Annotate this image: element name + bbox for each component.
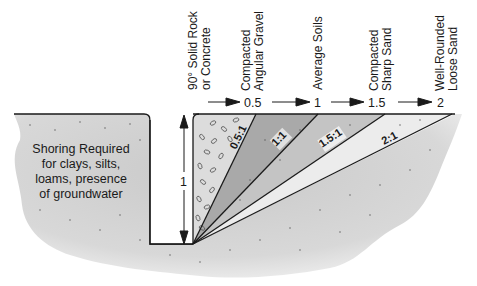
run-label-1: 1	[314, 96, 321, 110]
soil-label-rock-2: or Concrete	[199, 27, 213, 90]
vertical-label: 1	[180, 175, 187, 189]
run-label-0-5: 0.5	[244, 96, 261, 110]
svg-text:loams, presence: loams, presence	[35, 172, 127, 186]
soil-label-loose-2: Loose Sand	[446, 27, 460, 91]
run-label-1-5: 1.5	[368, 96, 385, 110]
soil-label-gravel-1: Compacted	[239, 30, 253, 91]
slope-diagram: 0.5:1 1:1 1.5:1 2:1 1 0.5 1 1.5 2 90° So…	[0, 0, 477, 286]
soil-label-loose-1: Well-Rounded	[433, 15, 447, 91]
soil-label-average: Average Soils	[311, 16, 325, 90]
run-label-2: 2	[437, 96, 444, 110]
svg-text:for clays, silts,: for clays, silts,	[42, 157, 121, 171]
soil-label-sharp-2: Sharp Sand	[380, 28, 394, 91]
soil-label-rock-1: 90° Solid Rock	[186, 10, 200, 90]
svg-text:Shoring Required: Shoring Required	[32, 142, 129, 156]
soil-label-gravel-2: Angular Gravel	[252, 11, 266, 91]
svg-text:of groundwater: of groundwater	[39, 187, 122, 201]
soil-label-sharp-1: Compacted	[367, 30, 381, 91]
shoring-note: Shoring Required for clays, silts, loams…	[32, 142, 129, 201]
